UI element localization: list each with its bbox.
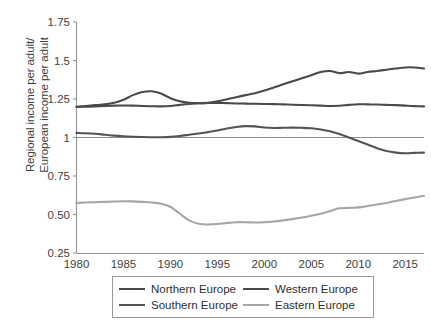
legend-item-northern-europe[interactable]: Northern Europe <box>119 283 243 295</box>
series-line-northern-europe <box>77 67 425 106</box>
legend-label-northern-europe: Northern Europe <box>151 283 236 295</box>
legend-label-southern-europe: Southern Europe <box>151 299 238 311</box>
legend-item-western-europe[interactable]: Western Europe <box>243 283 367 295</box>
legend-item-southern-europe[interactable]: Southern Europe <box>119 299 243 311</box>
series-line-western-europe <box>77 103 425 107</box>
series-line-eastern-europe <box>77 196 425 225</box>
legend-row: Southern Europe Eastern Europe <box>119 297 367 313</box>
legend-row: Northern Europe Western Europe <box>119 281 367 297</box>
legend-swatch-western-europe <box>243 288 269 290</box>
legend-label-western-europe: Western Europe <box>275 283 358 295</box>
data-series-group <box>77 67 425 224</box>
chart-container: Regional income per adult/ European inco… <box>0 0 431 332</box>
legend-label-eastern-europe: Eastern Europe <box>275 299 355 311</box>
legend-swatch-eastern-europe <box>243 304 269 306</box>
chart-legend: Northern Europe Western Europe Southern … <box>112 276 374 318</box>
series-line-southern-europe <box>77 126 425 153</box>
legend-swatch-northern-europe <box>119 288 145 290</box>
legend-swatch-southern-europe <box>119 304 145 306</box>
legend-item-eastern-europe[interactable]: Eastern Europe <box>243 299 367 311</box>
